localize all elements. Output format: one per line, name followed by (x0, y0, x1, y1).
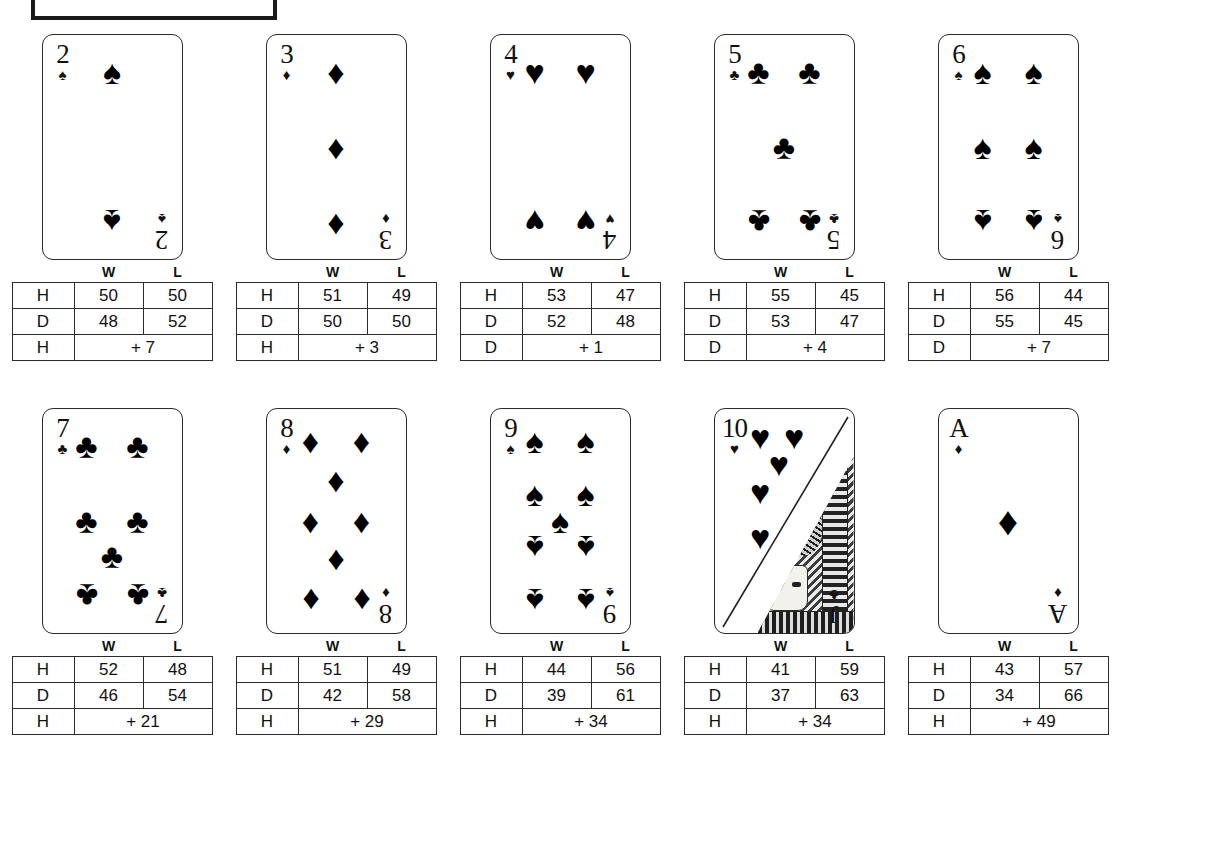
table-row: D4654 (12, 683, 212, 709)
card-grid: 2♠♠♠2♠WLH5050D4852H+ 73♦♦♦♦3♦WLH5149D505… (0, 34, 1212, 735)
playing-card-4[interactable]: 4♥♥♥♥♥4♥ (490, 34, 631, 260)
card-stat-group-6: 6♠♠♠♠♠♠♠6♠WLH5644D5545D+ 7 (896, 34, 1120, 361)
stats-table: H5149D4258H+ 29 (236, 656, 437, 735)
header-lose: L (815, 638, 884, 654)
table-row-best: H+ 21 (12, 709, 212, 735)
table-row-best: H+ 49 (908, 709, 1108, 735)
stats-table: H4456D3961H+ 34 (460, 656, 661, 735)
pip-spade: ♠ (569, 424, 603, 458)
card-stat-group-a: A♦♦A♦WLH4357D3466H+ 49 (896, 408, 1120, 735)
playing-card-9[interactable]: 9♠♠♠♠♠♠♠♠♠♠9♠ (490, 408, 631, 634)
card-pip-area: ♦♦♦ (294, 45, 379, 249)
playing-card-10[interactable]: 10♥♥♥♥♥♥J♣ (714, 408, 855, 634)
stats-table: H5248D4654H+ 21 (12, 656, 213, 735)
header-win: W (970, 264, 1039, 280)
playing-card-7[interactable]: 7♣♣♣♣♣♣♣♣7♣ (42, 408, 183, 634)
header-win: W (298, 638, 367, 654)
header-lose: L (815, 264, 884, 280)
pip-club: ♣ (70, 429, 104, 463)
best-edge-value: + 7 (970, 335, 1108, 361)
pip-spade: ♠ (966, 130, 1000, 164)
card-corner-bottom-right: 7♣ (149, 587, 175, 627)
row-lose-value: 45 (815, 283, 884, 309)
header-lose: L (1039, 264, 1108, 280)
table-row: H5347 (460, 283, 660, 309)
playing-card-a[interactable]: A♦♦A♦ (938, 408, 1079, 634)
table-row: D4852 (12, 309, 212, 335)
playing-card-3[interactable]: 3♦♦♦♦3♦ (266, 34, 407, 260)
card-stat-group-5: 5♣♣♣♣♣♣5♣WLH5545D5347D+ 4 (672, 34, 896, 361)
best-edge-value: + 29 (298, 709, 436, 735)
pip-diamond: ♦ (988, 501, 1028, 541)
table-row-best: H+ 34 (684, 709, 884, 735)
card-pip-area: ♠♠ (70, 45, 155, 249)
pip-spade: ♠ (966, 55, 1000, 89)
row-lose-value: 48 (143, 657, 212, 683)
row-lose-value: 44 (1039, 283, 1108, 309)
pip-spade: ♠ (1017, 130, 1051, 164)
table-row: H5644 (908, 283, 1108, 309)
row-lose-value: 66 (1039, 683, 1108, 709)
table-column-headers: WL (908, 638, 1108, 654)
card-stat-group-9: 9♠♠♠♠♠♠♠♠♠♠9♠WLH4456D3961H+ 34 (448, 408, 672, 735)
row-action-label: H (236, 657, 298, 683)
row-lose-value: 63 (815, 683, 884, 709)
card-corner-bottom-right: 2♠ (149, 213, 175, 253)
stats-table: H4159D3763H+ 34 (684, 656, 885, 735)
pip-club: ♣ (70, 504, 104, 538)
table-row: H4159 (684, 657, 884, 683)
header-lose: L (143, 264, 212, 280)
card-stat-group-8: 8♦♦♦♦♦♦♦♦♦8♦WLH5149D4258H+ 29 (224, 408, 448, 735)
card-corner-bottom-right: 9♠ (597, 587, 623, 627)
playing-card-6[interactable]: 6♠♠♠♠♠♠♠6♠ (938, 34, 1079, 260)
pip-heart: ♥ (518, 205, 552, 239)
playing-card-2[interactable]: 2♠♠♠2♠ (42, 34, 183, 260)
best-edge-value: + 49 (970, 709, 1108, 735)
pip-spade: ♠ (95, 55, 129, 89)
playing-card-5[interactable]: 5♣♣♣♣♣♣5♣ (714, 34, 855, 260)
table-column-headers: WL (236, 264, 436, 280)
pip-spade: ♠ (95, 205, 129, 239)
row-win-value: 42 (298, 683, 367, 709)
card-pip-area: ♥♥♥♥ (518, 45, 603, 249)
best-action-label: H (12, 335, 74, 361)
row-action-label: D (236, 683, 298, 709)
table-row: D5545 (908, 309, 1108, 335)
table-row-best: H+ 34 (460, 709, 660, 735)
pip-diamond: ♦ (319, 545, 353, 579)
header-lose: L (591, 264, 660, 280)
card-row-lower: 7♣♣♣♣♣♣♣♣7♣WLH5248D4654H+ 218♦♦♦♦♦♦♦♦♦8♦… (0, 408, 1212, 735)
best-action-label: H (908, 709, 970, 735)
pip-diamond: ♦ (319, 55, 353, 89)
best-action-label: D (908, 335, 970, 361)
card-stat-group-10: 10♥♥♥♥♥♥J♣WLH4159D3763H+ 34 (672, 408, 896, 735)
card-stat-group-2: 2♠♠♠2♠WLH5050D4852H+ 7 (0, 34, 224, 361)
row-lose-value: 61 (591, 683, 660, 709)
header-win: W (970, 638, 1039, 654)
table-column-headers: WL (460, 264, 660, 280)
row-action-label: D (236, 309, 298, 335)
best-action-label: H (236, 335, 298, 361)
table-row: H4357 (908, 657, 1108, 683)
table-column-headers: WL (684, 264, 884, 280)
row-lose-value: 59 (815, 657, 884, 683)
row-action-label: D (460, 683, 522, 709)
header-win: W (522, 638, 591, 654)
row-win-value: 50 (298, 309, 367, 335)
card-corner-bottom-right: 6♠ (1045, 213, 1071, 253)
row-action-label: H (908, 283, 970, 309)
row-action-label: D (908, 309, 970, 335)
table-row: H5248 (12, 657, 212, 683)
row-action-label: H (236, 283, 298, 309)
card-stat-group-3: 3♦♦♦♦3♦WLH5149D5050H+ 3 (224, 34, 448, 361)
row-win-value: 43 (970, 657, 1039, 683)
playing-card-8[interactable]: 8♦♦♦♦♦♦♦♦♦8♦ (266, 408, 407, 634)
row-lose-value: 49 (367, 283, 436, 309)
header-win: W (74, 638, 143, 654)
card-stat-group-7: 7♣♣♣♣♣♣♣♣7♣WLH5248D4654H+ 21 (0, 408, 224, 735)
best-edge-value: + 1 (522, 335, 660, 361)
table-row: H4456 (460, 657, 660, 683)
row-lose-value: 58 (367, 683, 436, 709)
best-action-label: H (460, 709, 522, 735)
table-column-headers: WL (12, 264, 212, 280)
